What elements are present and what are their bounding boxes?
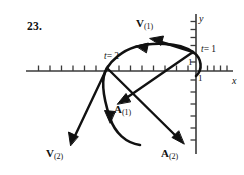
x-axis-ticks-right: [208, 66, 228, 72]
vector-label-v1-subscript: (1): [144, 22, 153, 31]
vector-label-a1-subscript: (1): [122, 108, 131, 117]
vector-label-a2: A(2): [161, 148, 178, 161]
vector-label-v2-subscript: (2): [54, 152, 63, 161]
y-axis-label: y: [199, 14, 203, 24]
t-equals-1-label: t= 1: [201, 45, 216, 55]
vector-label-v1-letter: V: [136, 17, 144, 29]
vector-label-v2-letter: V: [46, 147, 54, 159]
problem-number: 23.: [27, 21, 42, 33]
x-unit-tick-label: 1: [198, 74, 203, 83]
t-equals-2-label: t= 2: [104, 52, 119, 62]
figure-container: 23. y x 1 1 t= 1 t= 2 V(1) V(2) A(1) A(2…: [0, 0, 244, 175]
y-axis-ticks-above: [191, 22, 197, 63]
vector-a1: [118, 52, 194, 104]
vector-label-a1-letter: A: [114, 103, 122, 115]
t-equals-2-value: = 2: [107, 51, 119, 61]
vector-v2: [69, 68, 108, 146]
t-equals-1-value: = 1: [204, 44, 216, 54]
x-axis-label: x: [232, 76, 236, 86]
vector-arrows: [69, 36, 194, 146]
curve-direction-arrowhead: [136, 43, 149, 53]
vector-label-a2-letter: A: [161, 147, 169, 159]
y-unit-tick-label: 1: [188, 58, 193, 67]
vector-label-v2: V(2): [46, 148, 63, 161]
y-axis-ticks-below: [191, 80, 197, 140]
axis-group: [26, 14, 233, 154]
vector-label-v1: V(1): [136, 18, 153, 31]
vector-label-a2-subscript: (2): [169, 152, 178, 161]
vector-label-a1: A(1): [114, 104, 131, 117]
